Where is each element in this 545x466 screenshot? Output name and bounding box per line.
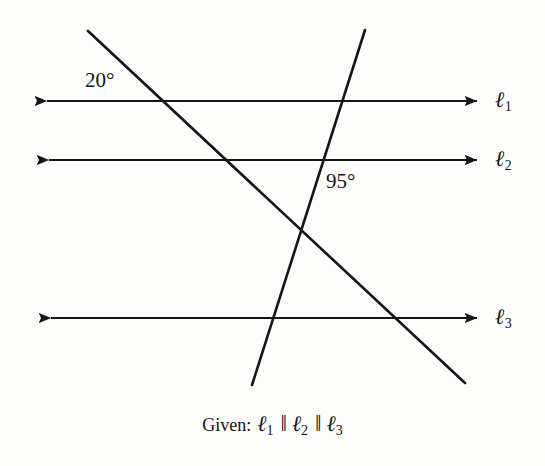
given-l3-glyph: ℓ [327,411,336,436]
line-label-l1-glyph: ℓ [495,87,504,112]
line-label-l2-glyph: ℓ [495,146,504,171]
line-label-l2-subscript: 2 [505,158,512,173]
line-label-l2: ℓ2 [495,148,512,173]
parallel-symbol-2: ‖ [315,411,320,436]
given-caption: Given:ℓ1‖ℓ2‖ℓ3 [0,412,545,438]
angle-label-95: 95° [326,171,355,192]
transversal-down-right [88,31,465,383]
given-word: Given: [202,415,251,435]
line-label-l1: ℓ1 [495,89,512,114]
line-label-l3-subscript: 3 [505,316,512,331]
geometry-figure: 20° 95° ℓ1 ℓ2 ℓ3 Given:ℓ1‖ℓ2‖ℓ3 [0,0,545,466]
given-l3-subscript: 3 [336,423,343,438]
given-l2-subscript: 2 [301,423,308,438]
angle-label-20: 20° [85,70,114,91]
transversal-up-right [252,30,365,385]
given-l3: ℓ3 [327,411,343,436]
line-label-l3-glyph: ℓ [495,304,504,329]
given-l2-glyph: ℓ [292,411,301,436]
diagram-canvas [0,0,545,466]
parallel-symbol-1: ‖ [280,411,285,436]
given-l1: ℓ1 [257,411,273,436]
line-label-l3: ℓ3 [495,306,512,331]
given-l2: ℓ2 [292,411,308,436]
line-label-l1-subscript: 1 [505,99,512,114]
given-l1-subscript: 1 [266,423,273,438]
